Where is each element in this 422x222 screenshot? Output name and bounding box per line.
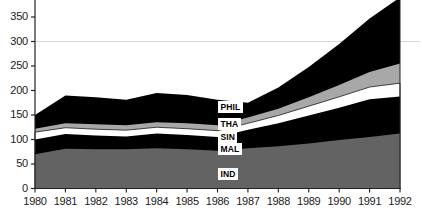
y-axis-tick-label: 350	[0, 10, 28, 22]
y-axis-tick-label: 250	[0, 59, 28, 71]
y-axis-tick-label: 50	[0, 157, 28, 169]
y-axis-tick-label: 100	[0, 133, 28, 145]
series-label-ind: IND	[218, 168, 238, 180]
series-label-tha: THA	[218, 118, 241, 130]
series-label-mal: MAL	[218, 143, 242, 155]
y-axis-tick-label: 300	[0, 35, 28, 47]
area-series-group	[35, 0, 400, 189]
y-axis-tick-label: 0	[0, 182, 28, 194]
series-label-sin: SIN	[218, 131, 237, 143]
stacked-area-chart: 050100150200250300350 198019811982198319…	[0, 0, 422, 222]
y-axis-tick-label: 200	[0, 84, 28, 96]
chart-plot-area	[0, 0, 422, 222]
x-axis-tick-label: 1992	[378, 195, 422, 207]
y-axis-tick-label: 150	[0, 108, 28, 120]
series-label-phil: PHIL	[218, 101, 243, 113]
